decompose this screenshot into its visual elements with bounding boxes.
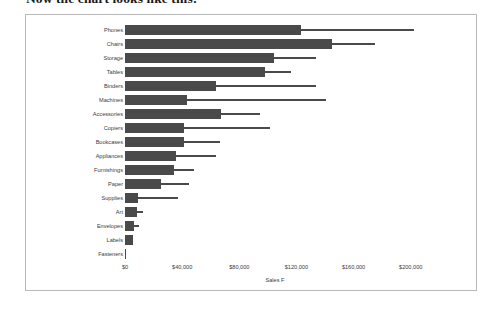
category-label: Chairs bbox=[107, 37, 123, 51]
sales-bar[interactable] bbox=[125, 123, 184, 133]
sales-bar[interactable] bbox=[125, 39, 332, 49]
page-heading: Now the chart looks like this: bbox=[26, 0, 197, 7]
category-label: Phones bbox=[104, 23, 123, 37]
category-label: Accessories bbox=[93, 107, 123, 121]
category-label: Machines bbox=[99, 93, 123, 107]
sales-bar[interactable] bbox=[125, 221, 134, 231]
category-label: Storage bbox=[103, 51, 123, 65]
sales-bar[interactable] bbox=[125, 165, 174, 175]
sales-bar[interactable] bbox=[125, 109, 221, 119]
sales-bar[interactable] bbox=[125, 81, 216, 91]
plot-area: PhonesChairsStorageTablesBindersMachines… bbox=[26, 15, 476, 290]
bar-row[interactable]: Chairs bbox=[26, 37, 476, 51]
sales-bar[interactable] bbox=[125, 249, 126, 259]
bar-row[interactable]: Storage bbox=[26, 51, 476, 65]
category-label: Copiers bbox=[104, 121, 123, 135]
category-label: Paper bbox=[108, 177, 123, 191]
sales-bar[interactable] bbox=[125, 235, 133, 245]
sales-bar[interactable] bbox=[125, 25, 301, 35]
bar-row[interactable]: Machines bbox=[26, 93, 476, 107]
x-axis-tick: $120,000 bbox=[285, 264, 308, 270]
bar-row[interactable]: Supplies bbox=[26, 191, 476, 205]
bar-row[interactable]: Tables bbox=[26, 65, 476, 79]
category-label: Supplies bbox=[102, 191, 123, 205]
category-label: Envelopes bbox=[97, 219, 123, 233]
sales-bar[interactable] bbox=[125, 193, 138, 203]
sales-bar[interactable] bbox=[125, 67, 265, 77]
category-label: Art bbox=[116, 205, 123, 219]
bar-row[interactable]: Appliances bbox=[26, 149, 476, 163]
sales-bar[interactable] bbox=[125, 151, 176, 161]
category-label: Binders bbox=[104, 79, 123, 93]
category-label: Tables bbox=[107, 65, 123, 79]
bar-row[interactable]: Bookcases bbox=[26, 135, 476, 149]
bar-row[interactable]: Phones bbox=[26, 23, 476, 37]
x-axis-tick: $80,000 bbox=[229, 264, 249, 270]
x-axis-tick: $200,000 bbox=[399, 264, 422, 270]
bar-rows: PhonesChairsStorageTablesBindersMachines… bbox=[26, 23, 476, 261]
bar-row[interactable]: Art bbox=[26, 205, 476, 219]
bar-row[interactable]: Copiers bbox=[26, 121, 476, 135]
bar-row[interactable]: Envelopes bbox=[26, 219, 476, 233]
x-axis-tick: $160,000 bbox=[342, 264, 365, 270]
x-axis-tick: $0 bbox=[122, 264, 128, 270]
x-axis-title-label: Sales F bbox=[266, 277, 285, 283]
chart-panel: PhonesChairsStorageTablesBindersMachines… bbox=[25, 14, 477, 291]
bar-row[interactable]: Fasteners bbox=[26, 247, 476, 261]
category-label: Labels bbox=[107, 233, 123, 247]
sales-bar[interactable] bbox=[125, 179, 161, 189]
category-label: Fasteners bbox=[98, 247, 123, 261]
bar-row[interactable]: Binders bbox=[26, 79, 476, 93]
sales-bar[interactable] bbox=[125, 137, 184, 147]
sales-bar[interactable] bbox=[125, 95, 187, 105]
bar-row[interactable]: Accessories bbox=[26, 107, 476, 121]
bar-row[interactable]: Labels bbox=[26, 233, 476, 247]
bar-row[interactable]: Furnishings bbox=[26, 163, 476, 177]
category-label: Furnishings bbox=[94, 163, 123, 177]
category-label: Bookcases bbox=[96, 135, 123, 149]
x-axis-tick: $40,000 bbox=[172, 264, 192, 270]
category-label: Appliances bbox=[96, 149, 123, 163]
sales-bar[interactable] bbox=[125, 53, 274, 63]
x-axis-title: Sales F bbox=[125, 277, 425, 283]
sales-bar[interactable] bbox=[125, 207, 137, 217]
x-axis-tick-labels: $0$40,000$80,000$120,000$160,000$200,000 bbox=[125, 264, 425, 274]
bar-row[interactable]: Paper bbox=[26, 177, 476, 191]
